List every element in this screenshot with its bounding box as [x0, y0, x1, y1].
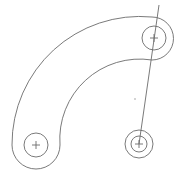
drawing-canvas — [0, 0, 186, 179]
construction-line[interactable] — [139, 5, 159, 144]
center-mark-bottom-left-icon — [32, 141, 40, 149]
sketch-point[interactable] — [134, 98, 135, 99]
